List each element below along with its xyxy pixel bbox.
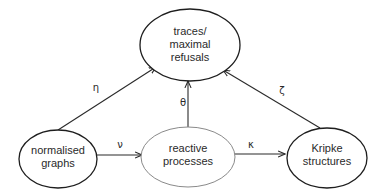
edge-label-eta: η	[93, 82, 99, 93]
node-kripke-line-2: structures	[303, 155, 352, 167]
edge-zeta: ζ	[223, 70, 320, 128]
node-processes-line-2: processes	[163, 155, 214, 167]
node-processes-line-1: reactive	[169, 142, 208, 154]
node-graphs-line-2: graphs	[41, 157, 75, 169]
node-normalised-graphs: normalised graphs	[19, 130, 97, 188]
node-traces-line-1: traces/	[173, 25, 207, 37]
node-kripke-line-1: Kripke	[311, 142, 342, 154]
node-reactive-processes: reactive processes	[141, 127, 235, 187]
node-kripke-structures: Kripke structures	[287, 128, 367, 188]
edge-label-theta: θ	[180, 97, 186, 108]
edge-label-zeta: ζ	[279, 85, 284, 96]
edge-eta: η	[58, 67, 156, 130]
node-graphs-line-1: normalised	[31, 144, 85, 156]
node-traces-line-3: refusals	[171, 51, 210, 63]
edge-kappa: κ	[235, 139, 285, 154]
node-traces-line-2: maximal	[170, 38, 211, 50]
edge-theta: θ	[180, 81, 188, 128]
edge-label-nu: ν	[117, 139, 123, 150]
node-traces-maximal-refusals: traces/ maximal refusals	[140, 9, 240, 81]
edge-nu: ν	[96, 139, 142, 155]
edge-label-kappa: κ	[248, 139, 254, 150]
diagram-canvas: η θ ζ ν κ traces/ maximal refusals norm	[0, 0, 378, 194]
